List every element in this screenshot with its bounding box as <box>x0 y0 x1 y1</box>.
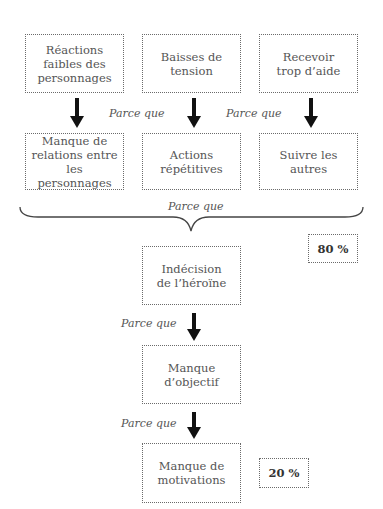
box-label: Réactions faibles des personnages <box>35 43 115 85</box>
percent-80-badge: 80 % <box>308 234 358 263</box>
parce-que-label: Parce que <box>168 200 224 213</box>
box-recevoir-aide: Recevoir trop d’aide <box>259 34 358 93</box>
box-label: Manque de motivations <box>152 459 232 487</box>
box-label: Baisses de tension <box>157 50 227 78</box>
box-manque-motivations: Manque de motivations <box>142 443 241 503</box>
down-arrow-icon <box>70 98 84 128</box>
box-baisses-tension: Baisses de tension <box>142 34 241 93</box>
box-manque-relations: Manque de relations entre les personnage… <box>25 133 124 190</box>
box-label: Manque d’objectif <box>157 361 227 389</box>
box-label: Recevoir trop d’aide <box>274 50 344 78</box>
box-manque-objectif: Manque d’objectif <box>142 345 241 404</box>
percent-value: 20 % <box>269 466 300 480</box>
parce-que-label: Parce que <box>226 107 282 120</box>
box-label: Suivre les autres <box>279 148 339 176</box>
down-arrow-icon <box>187 98 201 128</box>
parce-que-label: Parce que <box>121 417 177 430</box>
down-arrow-icon <box>187 412 201 439</box>
box-label: Manque de relations entre les personnage… <box>29 134 121 190</box>
box-indecision-heroine: Indécision de l’héroïne <box>142 246 241 305</box>
box-reactions-faibles: Réactions faibles des personnages <box>25 34 124 93</box>
box-actions-repetitives: Actions répétitives <box>142 133 241 190</box>
percent-value: 80 % <box>318 242 349 256</box>
parce-que-label: Parce que <box>109 107 165 120</box>
parce-que-label: Parce que <box>121 317 177 330</box>
percent-20-badge: 20 % <box>259 458 309 488</box>
box-label: Indécision de l’héroïne <box>157 262 227 290</box>
box-label: Actions répétitives <box>157 148 227 176</box>
down-arrow-icon <box>187 313 201 341</box>
box-suivre-autres: Suivre les autres <box>259 133 358 190</box>
down-arrow-icon <box>304 98 318 128</box>
